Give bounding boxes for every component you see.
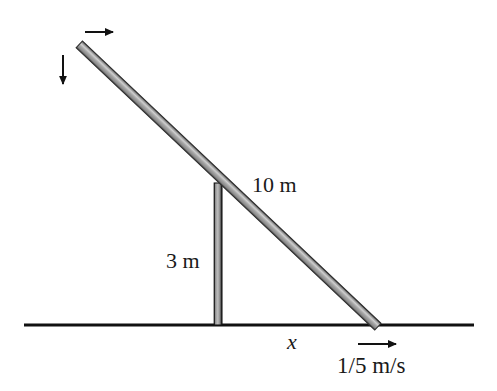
ladder-length-label: 10 m	[252, 174, 297, 196]
physics-diagram: 10 m 3 m x 1/5 m/s	[0, 0, 497, 391]
base-speed-label: 1/5 m/s	[337, 354, 405, 377]
base-distance-label: x	[287, 331, 297, 353]
diagram-canvas	[0, 0, 497, 391]
vertical-pole	[214, 183, 222, 325]
leaning-ladder	[76, 41, 381, 330]
pole-height-label: 3 m	[166, 250, 200, 272]
